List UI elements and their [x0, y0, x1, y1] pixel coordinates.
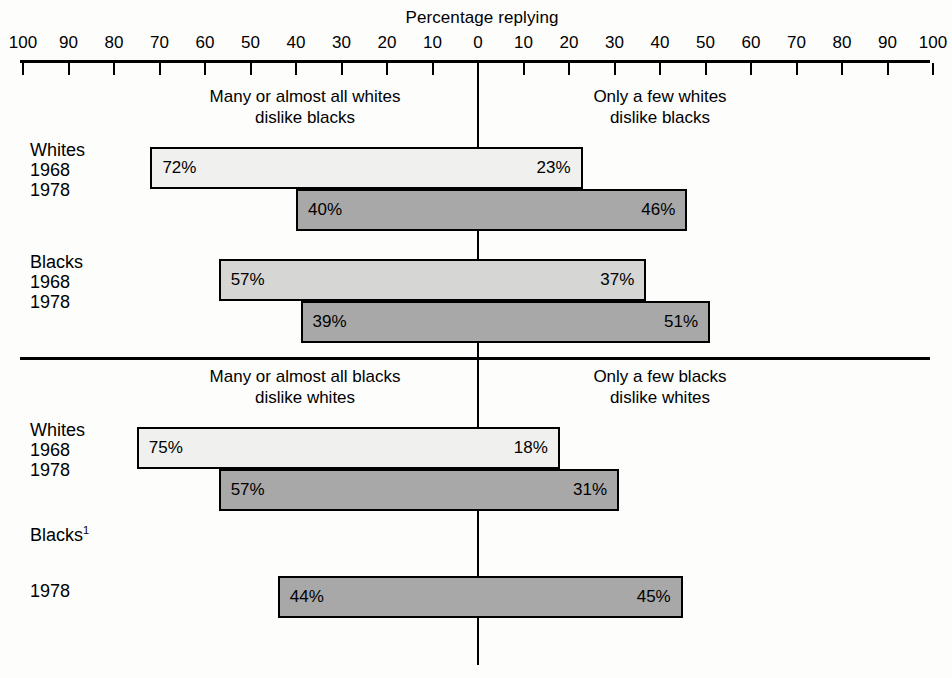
bar-value-right: 37% — [600, 270, 634, 290]
axis-tick-label: 90 — [59, 33, 78, 53]
axis-tick-label: 30 — [332, 33, 351, 53]
group-label-year: 1978 — [30, 180, 85, 200]
axis-tick-label: 80 — [105, 33, 124, 53]
axis-tick-label: 70 — [787, 33, 806, 53]
group-label-year: 1978 — [30, 292, 83, 312]
axis-tick-label: 10 — [423, 33, 442, 53]
axis-tick-mark — [295, 63, 297, 75]
axis-tick-mark — [341, 63, 343, 75]
bar-value-right: 45% — [637, 587, 671, 607]
axis-tick-label: 40 — [287, 33, 306, 53]
data-bar: 44%45% — [278, 576, 683, 618]
heading-line: Only a few whites — [593, 86, 726, 107]
axis-tick-label: 50 — [696, 33, 715, 53]
left-half-heading: Many or almost all blacksdislike whites — [210, 366, 401, 408]
axis-tick-marks — [0, 63, 952, 75]
axis-tick-label: 90 — [878, 33, 897, 53]
axis-tick-label: 0 — [473, 33, 482, 53]
axis-tick-label: 20 — [560, 33, 579, 53]
group-label-name: Blacks1 — [30, 525, 89, 545]
section-divider — [20, 357, 930, 360]
axis-tick-mark — [796, 63, 798, 75]
group-label: Blacks11978 — [30, 525, 89, 601]
axis-tick-mark — [568, 63, 570, 75]
bar-value-right: 51% — [664, 312, 698, 332]
heading-line: dislike whites — [593, 387, 726, 408]
axis-tick-mark — [932, 63, 934, 75]
axis-tick-labels: 1009080706050403020100102030405060708090… — [0, 33, 952, 55]
axis-tick-label: 60 — [742, 33, 761, 53]
group-label-year: 1968 — [30, 440, 85, 460]
axis-tick-label: 50 — [241, 33, 260, 53]
axis-tick-mark — [705, 63, 707, 75]
axis-tick-label: 10 — [514, 33, 533, 53]
axis-tick-mark — [159, 63, 161, 75]
heading-line: dislike blacks — [593, 107, 726, 128]
heading-line: Many or almost all blacks — [210, 366, 401, 387]
group-label-name: Whites — [30, 420, 85, 440]
bar-value-left: 57% — [231, 480, 265, 500]
axis-title: Percentage replying — [0, 8, 952, 28]
data-bar: 57%37% — [219, 259, 647, 301]
group-label-year: 1978 — [30, 581, 89, 601]
axis-tick-mark — [659, 63, 661, 75]
group-label-year: 1968 — [30, 272, 83, 292]
axis-tick-mark — [113, 63, 115, 75]
group-label: Whites19681978 — [30, 140, 85, 200]
heading-line: dislike whites — [210, 387, 401, 408]
heading-line: dislike blacks — [210, 107, 401, 128]
bar-value-right: 46% — [641, 200, 675, 220]
axis-tick-mark — [887, 63, 889, 75]
axis-tick-label: 100 — [919, 33, 947, 53]
bar-value-right: 23% — [537, 158, 571, 178]
bar-value-left: 72% — [162, 158, 196, 178]
bar-value-right: 18% — [514, 438, 548, 458]
data-bar: 39%51% — [301, 301, 711, 343]
heading-line: Many or almost all whites — [210, 86, 401, 107]
group-label: Blacks19681978 — [30, 252, 83, 312]
group-label-name: Whites — [30, 140, 85, 160]
group-label-year: 1968 — [30, 160, 85, 180]
axis-tick-mark — [841, 63, 843, 75]
axis-tick-mark — [250, 63, 252, 75]
axis-tick-mark — [614, 63, 616, 75]
axis-tick-mark — [750, 63, 752, 75]
bar-value-left: 75% — [149, 438, 183, 458]
axis-tick-mark — [68, 63, 70, 75]
data-bar: 72%23% — [150, 147, 582, 189]
axis-tick-label: 20 — [378, 33, 397, 53]
group-label-name: Blacks — [30, 252, 83, 272]
right-half-heading: Only a few blacksdislike whites — [593, 366, 726, 408]
axis-tick-label: 70 — [150, 33, 169, 53]
axis-tick-label: 40 — [651, 33, 670, 53]
left-half-heading: Many or almost all whitesdislike blacks — [210, 86, 401, 128]
heading-line: Only a few blacks — [593, 366, 726, 387]
axis-title-text: Percentage replying — [405, 8, 558, 27]
axis-tick-mark — [523, 63, 525, 75]
data-bar: 40%46% — [296, 189, 687, 231]
footnote-marker: 1 — [83, 524, 89, 536]
axis-tick-mark — [432, 63, 434, 75]
axis-tick-mark — [204, 63, 206, 75]
axis-tick-label: 30 — [605, 33, 624, 53]
bar-value-left: 39% — [313, 312, 347, 332]
bar-value-left: 40% — [308, 200, 342, 220]
group-label-year: 1978 — [30, 460, 85, 480]
data-bar: 75%18% — [137, 427, 560, 469]
axis-tick-mark — [386, 63, 388, 75]
bar-value-left: 44% — [290, 587, 324, 607]
axis-tick-mark — [22, 63, 24, 75]
group-label: Whites19681978 — [30, 420, 85, 480]
bar-value-left: 57% — [231, 270, 265, 290]
right-half-heading: Only a few whitesdislike blacks — [593, 86, 726, 128]
bar-value-right: 31% — [573, 480, 607, 500]
diverging-bar-chart: Percentage replying 10090807060504030201… — [0, 0, 952, 678]
axis-tick-label: 100 — [9, 33, 37, 53]
data-bar: 57%31% — [219, 469, 619, 511]
axis-tick-label: 60 — [196, 33, 215, 53]
axis-tick-label: 80 — [833, 33, 852, 53]
